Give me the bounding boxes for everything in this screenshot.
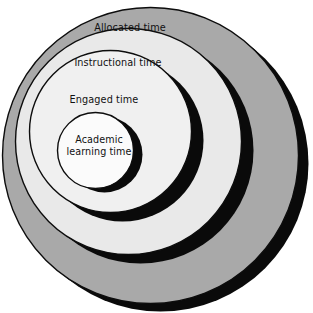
ring-circle-academic[interactable] [58,113,134,189]
figure-root: Allocated time Instructional time Engage… [0,0,313,313]
nested-circles-diagram [0,0,313,313]
